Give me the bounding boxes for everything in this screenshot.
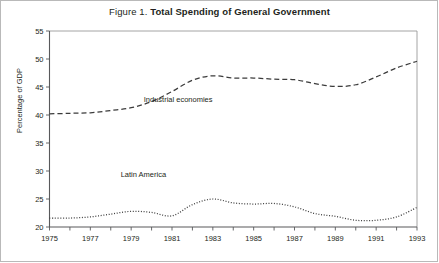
plot-frame <box>50 31 418 227</box>
x-tick-label: 1987 <box>286 234 303 243</box>
series-label: Latin America <box>121 170 167 179</box>
series-label: Industrial economies <box>144 95 213 104</box>
y-tick-label: 45 <box>35 83 43 92</box>
x-tick-label: 1975 <box>41 234 58 243</box>
y-axis-ticks: 2025303540455055 <box>35 27 49 232</box>
x-axis-ticks: 1975197719791981198319851987198919911993 <box>41 227 425 243</box>
chart-plot-area: 2025303540455055 19751977197919811983198… <box>0 0 439 263</box>
x-tick-label: 1979 <box>123 234 140 243</box>
x-tick-label: 1991 <box>368 234 385 243</box>
plot-axes <box>50 31 418 227</box>
y-tick-label: 40 <box>35 111 43 120</box>
y-tick-label: 55 <box>35 27 43 36</box>
y-tick-label: 20 <box>35 223 43 232</box>
y-tick-label: 30 <box>35 167 43 176</box>
x-tick-label: 1993 <box>409 234 426 243</box>
y-tick-label: 35 <box>35 139 43 148</box>
x-tick-label: 1981 <box>164 234 181 243</box>
y-tick-label: 25 <box>35 195 43 204</box>
series-line-latin-america <box>50 199 418 221</box>
series-annotations: Industrial economiesLatin America <box>121 95 213 179</box>
x-tick-label: 1989 <box>327 234 344 243</box>
series-line-industrial-economies <box>50 61 418 114</box>
x-tick-label: 1977 <box>82 234 99 243</box>
x-tick-label: 1983 <box>204 234 221 243</box>
line-chart-svg: 2025303540455055 19751977197919811983198… <box>0 0 439 263</box>
y-tick-label: 50 <box>35 55 43 64</box>
x-tick-label: 1985 <box>245 234 262 243</box>
